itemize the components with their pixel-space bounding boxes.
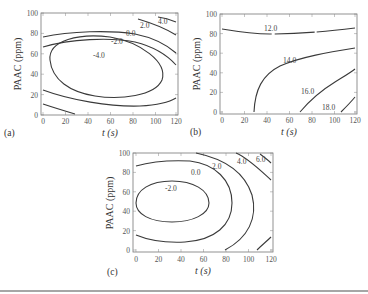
contour-c-2 [196,153,254,250]
x-ticks-a [43,13,176,115]
plot-frame-c [133,153,273,252]
x-axis-label-b: t (s) [281,126,298,138]
svg-text:-4.0: -4.0 [93,51,105,60]
svg-text:120: 120 [349,116,361,125]
contour-labels-b: 12.0 14.0 16.0 18.0 [264,24,335,112]
contour-b-18 [341,97,355,112]
x-axis-label-c: t (s) [195,265,212,277]
svg-text:120: 120 [265,255,277,264]
x-tick-labels-c: 0 20 40 60 80 100 120 [134,255,277,264]
contour-b-12 [222,28,355,34]
x-ticks-c [136,153,271,252]
svg-text:60: 60 [31,50,39,59]
svg-text:20: 20 [241,116,249,125]
panel-b: 0 20 40 60 80 100 0 20 40 60 80 100 120 … [190,10,361,138]
contour-a-neg2-upper [43,39,176,65]
svg-text:0: 0 [220,116,224,125]
contour-a-neg2-lower [43,90,176,106]
svg-text:60: 60 [286,116,294,125]
svg-text:4.0: 4.0 [237,157,247,166]
svg-text:-2.0: -2.0 [111,37,123,46]
svg-text:80: 80 [31,29,39,38]
panel-label-c: (c) [107,267,118,278]
svg-text:80: 80 [222,255,230,264]
svg-text:0: 0 [134,255,138,264]
contour-labels-a: -4.0 -2.0 0.0 2.0 4.0 [93,17,168,60]
svg-text:100: 100 [329,116,341,125]
contour-b-14 [254,48,355,112]
panel-a: 0 20 40 60 80 100 0 20 40 60 80 100 120 … [4,9,182,139]
y-tick-labels-c: 0 20 40 60 80 100 [119,149,131,255]
y-axis-label-b: PAAC (ppm) [191,38,203,91]
svg-text:20: 20 [62,117,70,126]
svg-text:0: 0 [126,246,130,255]
svg-text:20: 20 [123,227,131,236]
svg-text:100: 100 [243,255,255,264]
svg-text:12.0: 12.0 [264,24,277,33]
x-axis-label-a: t (s) [102,127,119,139]
svg-text:0.0: 0.0 [191,168,201,177]
contours-b [222,28,355,112]
contour-a-0-lower [43,104,75,114]
panel-c: 0 20 40 60 80 100 0 20 40 60 80 100 120 … [104,149,277,278]
svg-text:100: 100 [119,149,131,158]
svg-text:14.0: 14.0 [283,56,296,65]
svg-text:0: 0 [213,108,217,117]
svg-text:80: 80 [129,117,137,126]
svg-text:100: 100 [150,117,162,126]
x-tick-labels-b: 0 20 40 60 80 100 120 [220,116,361,125]
svg-text:80: 80 [210,30,218,39]
svg-text:60: 60 [123,188,131,197]
figure-canvas: 0 20 40 60 80 100 0 20 40 60 80 100 120 … [0,0,368,294]
svg-text:40: 40 [210,69,218,78]
svg-text:18.0: 18.0 [322,103,335,112]
svg-text:100: 100 [27,9,39,18]
contours-c [136,153,271,250]
contour-c-0 [136,161,232,242]
svg-text:2.0: 2.0 [212,162,222,171]
svg-text:60: 60 [200,255,208,264]
svg-text:6.0: 6.0 [256,155,266,164]
svg-text:20: 20 [210,88,218,97]
y-axis-label-c: PAAC (ppm) [104,177,116,230]
y-tick-labels-b: 0 20 40 60 80 100 [206,10,218,117]
plot-frame-a [41,13,178,115]
svg-text:60: 60 [107,117,115,126]
svg-text:120: 120 [170,117,182,126]
svg-text:16.0: 16.0 [301,87,314,96]
svg-text:20: 20 [155,255,163,264]
y-tick-labels-a: 0 20 40 60 80 100 [27,9,39,120]
svg-text:0: 0 [34,111,38,120]
svg-text:80: 80 [308,116,316,125]
y-ticks-c [133,153,273,250]
svg-text:40: 40 [177,255,185,264]
svg-text:40: 40 [31,70,39,79]
svg-text:20: 20 [31,91,39,100]
svg-text:40: 40 [123,207,131,216]
svg-text:4.0: 4.0 [158,17,168,26]
svg-text:40: 40 [263,116,271,125]
y-ticks-a [41,13,178,115]
panel-label-a: (a) [4,128,15,139]
svg-text:0.0: 0.0 [126,29,136,38]
svg-text:60: 60 [210,49,218,58]
panel-label-b: (b) [190,127,201,138]
svg-text:40: 40 [84,117,92,126]
svg-text:-2.0: -2.0 [165,184,177,193]
y-axis-label-a: PAAC (ppm) [12,38,24,91]
x-tick-labels-a: 0 20 40 60 80 100 120 [41,117,182,126]
contour-c-unlabeled [257,237,271,250]
svg-text:80: 80 [123,168,131,177]
svg-text:100: 100 [206,10,218,19]
svg-text:0: 0 [41,117,45,126]
contours-a [43,17,176,114]
svg-text:2.0: 2.0 [140,21,150,30]
